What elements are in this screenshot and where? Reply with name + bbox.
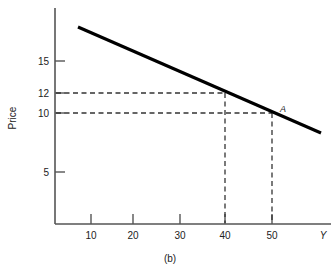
y-tick-label-5: 5 — [43, 167, 49, 178]
x-tick-label-50: 50 — [266, 230, 278, 241]
y-tick-label-12: 12 — [38, 88, 50, 99]
figure-caption: (b) — [164, 253, 176, 264]
x-tick-label-40: 40 — [219, 230, 231, 241]
chart-figure: 15 12 10 5 10 20 30 40 50 Y Price A (b) — [0, 0, 335, 275]
point-a-label: A — [279, 104, 286, 114]
chart-canvas: 15 12 10 5 10 20 30 40 50 Y Price A (b) — [0, 0, 335, 275]
y-tick-label-10: 10 — [38, 108, 50, 119]
x-tick-label-30: 30 — [174, 230, 186, 241]
x-tick-label-20: 20 — [127, 230, 139, 241]
x-tick-label-10: 10 — [85, 230, 97, 241]
y-tick-label-15: 15 — [38, 56, 50, 67]
y-axis-title-label: Price — [7, 106, 18, 129]
chart-background — [0, 0, 335, 275]
